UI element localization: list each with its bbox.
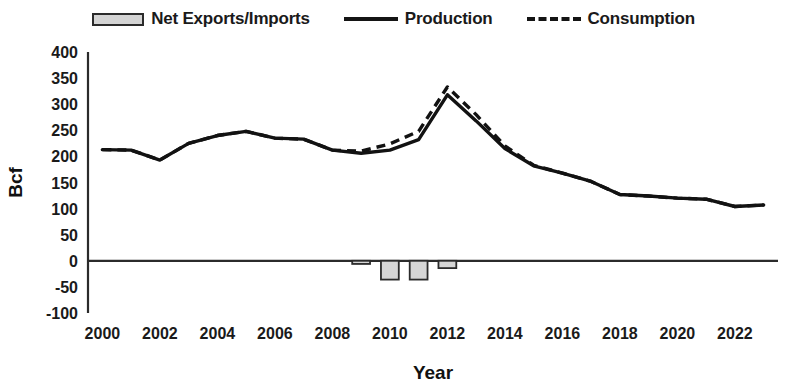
consumption-line — [102, 87, 763, 207]
x-axis-title: Year — [413, 362, 454, 383]
y-tick-100: 100 — [51, 201, 78, 218]
bar-2012 — [438, 261, 456, 268]
x-axis-tick-labels: 2000200220042006200820102012201420162018… — [85, 325, 753, 342]
x-tick-2016: 2016 — [545, 325, 581, 342]
y-tick-250: 250 — [51, 122, 78, 139]
y-tick--100: -100 — [46, 305, 78, 322]
y-tick-50: 50 — [60, 227, 78, 244]
x-tick-2002: 2002 — [142, 325, 178, 342]
production-line — [102, 95, 763, 207]
x-tick-2012: 2012 — [430, 325, 466, 342]
x-tick-2006: 2006 — [257, 325, 293, 342]
x-tick-2014: 2014 — [487, 325, 523, 342]
x-tick-2020: 2020 — [660, 325, 696, 342]
bar-2010 — [381, 261, 399, 280]
net-exports-imports-bars — [352, 261, 456, 280]
x-tick-2008: 2008 — [315, 325, 351, 342]
x-tick-2004: 2004 — [200, 325, 236, 342]
x-tick-2010: 2010 — [372, 325, 408, 342]
y-tick-350: 350 — [51, 70, 78, 87]
x-tick-2022: 2022 — [717, 325, 753, 342]
y-tick--50: -50 — [55, 279, 78, 296]
chart-plot-area: 400350300250200150100500-50-100 20002002… — [0, 0, 787, 389]
x-tick-2000: 2000 — [85, 325, 121, 342]
bar-2011 — [410, 261, 428, 280]
y-tick-200: 200 — [51, 148, 78, 165]
y-axis-tick-labels: 400350300250200150100500-50-100 — [46, 44, 78, 322]
y-axis-title: Bcf — [5, 167, 26, 198]
y-tick-150: 150 — [51, 175, 78, 192]
chart-container: Net Exports/Imports Production Consumpti… — [0, 0, 787, 389]
x-tick-2018: 2018 — [602, 325, 638, 342]
y-tick-0: 0 — [69, 253, 78, 270]
bar-2009 — [352, 261, 370, 264]
y-tick-400: 400 — [51, 44, 78, 61]
y-tick-300: 300 — [51, 96, 78, 113]
